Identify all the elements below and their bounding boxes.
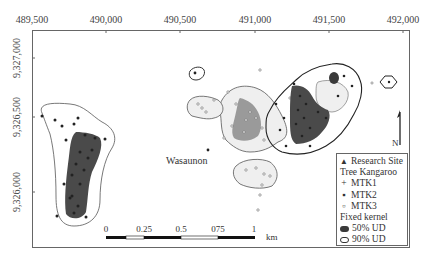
mtk1-point-icon: + — [340, 178, 348, 189]
mtk3-point-icon: ▫ — [340, 201, 348, 212]
mtk2-point-icon: ▪ — [340, 190, 348, 201]
legend-kernel-item: 90% UD — [352, 234, 386, 245]
legend: ▴Research Site Tree Kangaroo +MTK1 ▪MTK2… — [336, 153, 408, 246]
research-site-icon: ▴ — [340, 156, 348, 167]
legend-item: MTK1 — [351, 178, 377, 189]
legend-title: Tree Kangaroo — [340, 167, 397, 178]
mtk3-ud90-west — [187, 96, 223, 119]
scale-label: 0.25 — [136, 224, 152, 234]
legend-kernel-title: Fixed kernel — [340, 212, 388, 223]
legend-item: MTK3 — [351, 201, 377, 212]
mtk1-ud50-small — [329, 72, 339, 84]
place-label-wasaunon: Wasaunon — [166, 155, 207, 166]
legend-item: MTK2 — [351, 190, 377, 201]
ud50-swatch-icon — [340, 226, 349, 232]
scale-bar — [106, 236, 255, 239]
scale-label: 0.5 — [175, 224, 186, 234]
research-site-marker — [207, 149, 210, 152]
north-label: N — [392, 138, 399, 148]
legend-kernel-item: 50% UD — [352, 223, 386, 234]
mtk3-ud90-south — [233, 159, 277, 188]
mtk3-ud50-island — [189, 67, 204, 80]
legend-research-site: Research Site — [351, 156, 403, 167]
scale-label: 0 — [104, 224, 109, 234]
ud90-swatch-icon — [340, 237, 349, 243]
scale-label: 1 — [252, 224, 257, 234]
scale-label: 075 — [211, 224, 225, 234]
scale-unit: km — [266, 232, 278, 242]
